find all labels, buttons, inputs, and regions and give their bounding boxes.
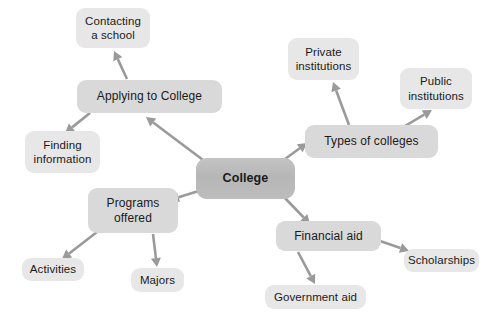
node-label-programs: Programs offered: [107, 196, 160, 225]
node-label-public: Public institutions: [408, 74, 464, 102]
node-label-finding: Finding information: [34, 138, 92, 166]
node-government[interactable]: Government aid: [265, 285, 366, 309]
edge-applying-contacting: [113, 51, 127, 79]
node-programs[interactable]: Programs offered: [88, 188, 178, 233]
node-label-college: College: [223, 171, 269, 186]
edge-types-public: [405, 110, 432, 126]
node-label-majors: Majors: [140, 273, 175, 287]
node-applying[interactable]: Applying to College: [77, 80, 222, 113]
edge-types-private: [331, 82, 349, 125]
edge-college-financial: [283, 196, 310, 224]
edge-applying-finding: [65, 113, 90, 133]
edge-programs-majors: [151, 234, 161, 267]
node-label-financial: Financial aid: [294, 229, 363, 244]
node-label-scholarships: Scholarships: [408, 253, 475, 267]
node-college[interactable]: College: [196, 158, 295, 199]
edge-financial-government: [298, 252, 315, 284]
node-label-contacting: Contacting a school: [85, 14, 141, 42]
node-finding[interactable]: Finding information: [25, 131, 100, 173]
edge-financial-scholarships: [380, 241, 409, 253]
edge-college-applying: [146, 117, 207, 163]
node-label-private: Private institutions: [296, 45, 352, 73]
edge-programs-activities: [62, 232, 97, 259]
mind-map-canvas: CollegeApplying to CollegeContacting a s…: [0, 0, 501, 322]
node-label-activities: Activities: [30, 262, 76, 276]
node-private[interactable]: Private institutions: [288, 38, 359, 80]
node-types[interactable]: Types of colleges: [305, 125, 438, 158]
node-scholarships[interactable]: Scholarships: [404, 249, 479, 272]
node-activities[interactable]: Activities: [22, 258, 84, 281]
node-public[interactable]: Public institutions: [400, 68, 472, 109]
node-financial[interactable]: Financial aid: [276, 221, 381, 251]
node-contacting[interactable]: Contacting a school: [76, 8, 150, 48]
node-label-applying: Applying to College: [97, 89, 202, 104]
node-majors[interactable]: Majors: [131, 268, 184, 292]
node-label-government: Government aid: [274, 290, 357, 304]
node-label-types: Types of colleges: [324, 134, 418, 149]
